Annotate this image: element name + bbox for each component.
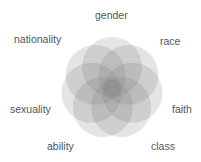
label-faith: faith: [172, 104, 192, 115]
label-race: race: [160, 36, 180, 47]
label-sexuality: sexuality: [10, 104, 51, 115]
label-ability: ability: [47, 141, 74, 152]
label-nationality: nationality: [14, 34, 61, 45]
intersectionality-diagram: [0, 0, 201, 162]
label-class: class: [151, 141, 175, 152]
label-gender: gender: [95, 10, 128, 21]
circle-nationality: [66, 45, 126, 105]
overlapping-circles: [62, 37, 163, 137]
